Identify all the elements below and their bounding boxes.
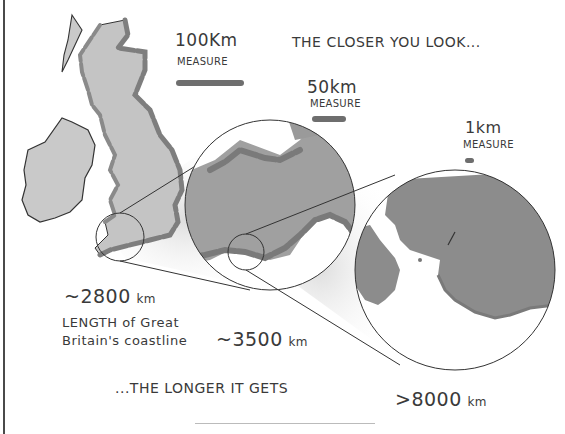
bottom-divider xyxy=(195,423,375,424)
scale-50km-value: 50km xyxy=(307,77,357,97)
scale-bar-50km xyxy=(312,116,346,122)
scale-bar-100km xyxy=(176,80,244,86)
scale-100km-value: 100Km xyxy=(175,30,238,50)
measurement-3500: ~3500 km xyxy=(216,328,308,350)
measurement-2800: ~2800 km xyxy=(64,285,156,307)
scale-1km-value: 1km xyxy=(465,118,502,137)
caption-line-1: LENGTH of Great xyxy=(62,315,179,330)
ireland-map xyxy=(22,118,95,222)
heading-closer: THE CLOSER YOU LOOK... xyxy=(292,34,481,50)
scale-100km-label: MEASURE xyxy=(177,56,228,67)
coastline-illustration xyxy=(0,0,565,434)
heading-longer: ...THE LONGER IT GETS xyxy=(115,380,288,396)
scale-1km-label: MEASURE xyxy=(463,139,514,150)
great-britain-map xyxy=(80,20,182,255)
hebrides-island xyxy=(62,15,82,72)
scale-bar-1km xyxy=(465,158,474,163)
scale-50km-label: MEASURE xyxy=(310,98,361,109)
caption-line-2: Britain's coastline xyxy=(62,333,187,348)
measurement-8000: >8000 km xyxy=(395,388,487,410)
